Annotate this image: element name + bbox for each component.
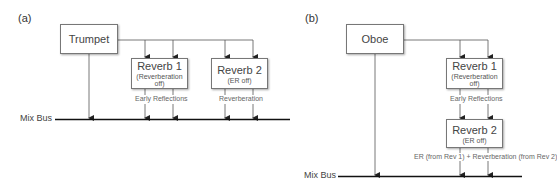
reverb1-sub-b: (Reverberation off) <box>447 73 502 87</box>
trumpet-label: Trumpet <box>69 33 110 45</box>
mix-bus-label-b: Mix Bus <box>304 170 336 180</box>
reverb1-title-a: Reverb 1 <box>137 60 182 72</box>
oboe-source-box: Oboe <box>346 24 404 54</box>
early-reflections-label-a: Early Reflections <box>135 95 188 102</box>
reverberation-label-a: Reverberation <box>219 95 263 102</box>
early-reflections-label-b: Early Reflections <box>450 95 503 102</box>
trumpet-source-box: Trumpet <box>60 24 118 54</box>
reverb1-box-a: Reverb 1 (Reverberation off) <box>131 58 188 89</box>
combined-output-label-b: ER (from Rev 1) + Reverberation (from Re… <box>414 153 557 160</box>
panel-a-label: (a) <box>18 12 31 24</box>
reverb2-title-b: Reverb 2 <box>452 124 497 136</box>
reverb2-sub-b: (ER off) <box>463 137 487 144</box>
reverb2-box-a: Reverb 2 (ER off) <box>211 58 268 89</box>
panel-b-label: (b) <box>305 12 318 24</box>
reverb2-sub-a: (ER off) <box>228 77 252 84</box>
mix-bus-label-a: Mix Bus <box>20 113 52 123</box>
reverb1-box-b: Reverb 1 (Reverberation off) <box>446 58 503 89</box>
reverb2-title-a: Reverb 2 <box>217 64 262 76</box>
oboe-label: Oboe <box>362 33 389 45</box>
reverb2-box-b: Reverb 2 (ER off) <box>446 119 503 148</box>
reverb1-sub-a: (Reverberation off) <box>132 73 187 87</box>
reverb1-title-b: Reverb 1 <box>452 60 497 72</box>
